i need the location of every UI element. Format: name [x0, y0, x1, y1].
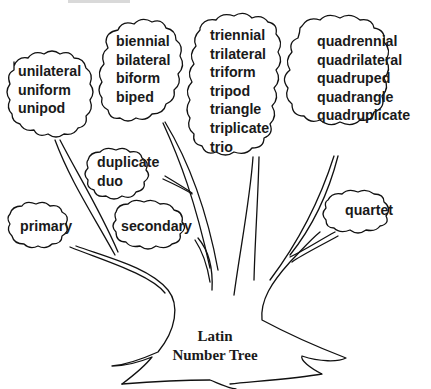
word: quadruped: [317, 69, 410, 88]
word: quadruplicate: [317, 106, 410, 125]
tree-branches: [55, 122, 338, 295]
word: quadrangle: [317, 88, 410, 107]
word: triform: [210, 63, 269, 82]
word: triplicate: [210, 119, 269, 138]
latin-number-tree-diagram: unilateral uniform unipod biennial bilat…: [0, 0, 431, 389]
word: tripod: [210, 82, 269, 101]
title-line-1: Latin: [160, 327, 270, 346]
word: unipod: [18, 99, 81, 118]
cloud-secondary-words: secondary: [121, 217, 192, 236]
word: duo: [97, 172, 159, 191]
word: unilateral: [18, 62, 81, 81]
word: biform: [116, 69, 170, 88]
word: bilateral: [116, 51, 170, 70]
title-line-2: Number Tree: [160, 346, 270, 365]
cloud-tri-words: triennial trilateral triform tripod tria…: [210, 26, 269, 156]
word: quadrennial: [317, 32, 410, 51]
word: uniform: [18, 81, 81, 100]
word: quartet: [345, 201, 393, 220]
cloud-primary-words: primary: [20, 217, 72, 236]
word: triangle: [210, 100, 269, 119]
diagram-title: Latin Number Tree: [160, 327, 270, 365]
word: primary: [20, 217, 72, 236]
word: secondary: [121, 217, 192, 236]
word: quadrilateral: [317, 51, 410, 70]
word: trio: [210, 138, 269, 157]
cloud-quartet-words: quartet: [345, 201, 393, 220]
word: biennial: [116, 32, 170, 51]
cloud-bi-words: biennial bilateral biform biped: [116, 32, 170, 106]
word: biped: [116, 88, 170, 107]
cloud-uni-words: unilateral uniform unipod: [18, 62, 81, 118]
cloud-du-words: duplicate duo: [97, 153, 159, 190]
word: trilateral: [210, 45, 269, 64]
cloud-quad-words: quadrennial quadrilateral quadruped quad…: [317, 32, 410, 125]
word: duplicate: [97, 153, 159, 172]
word: triennial: [210, 26, 269, 45]
